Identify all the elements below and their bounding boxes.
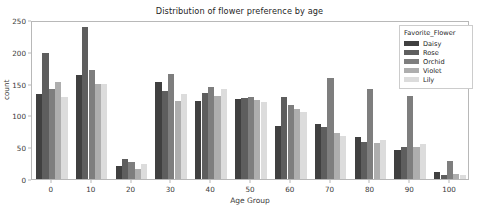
legend-title: Favorite_Flower xyxy=(404,29,468,37)
x-tick-mark xyxy=(409,180,410,183)
bar xyxy=(122,159,128,179)
bar xyxy=(361,142,367,179)
bar xyxy=(101,84,107,179)
bar xyxy=(441,175,447,179)
y-tick-label: 50 xyxy=(17,144,26,153)
x-tick-label: 50 xyxy=(245,185,254,194)
bar xyxy=(241,98,247,179)
bar xyxy=(275,126,281,179)
bar xyxy=(162,91,168,179)
bar xyxy=(42,53,48,179)
bar xyxy=(128,162,134,179)
bar xyxy=(434,172,440,179)
legend-label: Orchid xyxy=(423,58,445,66)
x-tick-mark xyxy=(250,180,251,183)
bar xyxy=(55,82,61,179)
legend-label: Violet xyxy=(423,67,442,75)
bar xyxy=(208,87,214,179)
x-tick-mark xyxy=(329,180,330,183)
x-tick-label: 100 xyxy=(442,185,456,194)
bar xyxy=(407,96,413,179)
legend-label: Rose xyxy=(423,49,439,57)
bar xyxy=(155,82,161,179)
bar xyxy=(380,140,386,179)
bar xyxy=(195,101,201,179)
y-tick-label: 150 xyxy=(12,80,26,89)
legend-item-orchid[interactable]: Orchid xyxy=(404,57,468,66)
legend-swatch-icon xyxy=(404,50,419,56)
bar xyxy=(367,89,373,179)
bar xyxy=(89,70,95,179)
bar xyxy=(413,147,419,179)
x-axis: 0102030405060708090100 xyxy=(31,180,469,196)
y-tick-label: 200 xyxy=(12,48,26,57)
bar xyxy=(300,112,306,179)
bar xyxy=(214,96,220,179)
bar xyxy=(294,109,300,179)
y-axis-label: count xyxy=(2,80,11,100)
legend: Favorite_Flower DaisyRoseOrchidVioletLil… xyxy=(399,25,473,89)
bar xyxy=(181,94,187,179)
bar xyxy=(327,78,333,179)
bar xyxy=(374,143,380,179)
y-tick-label: 100 xyxy=(12,112,26,121)
bar xyxy=(95,84,101,179)
legend-item-lily[interactable]: Lily xyxy=(404,75,468,84)
x-tick-mark xyxy=(289,180,290,183)
legend-swatch-icon xyxy=(404,77,419,83)
legend-item-rose[interactable]: Rose xyxy=(404,48,468,57)
bar xyxy=(334,133,340,179)
bar xyxy=(141,164,147,179)
bar xyxy=(321,127,327,179)
bar xyxy=(36,94,42,179)
bar xyxy=(420,144,426,179)
bar xyxy=(394,150,400,179)
x-tick-mark xyxy=(130,180,131,183)
bar xyxy=(288,105,294,179)
x-tick-label: 20 xyxy=(126,185,135,194)
bar xyxy=(61,97,67,179)
bar xyxy=(315,124,321,179)
x-tick-mark xyxy=(170,180,171,183)
legend-swatch-icon xyxy=(404,68,419,74)
x-tick-label: 60 xyxy=(285,185,294,194)
bar xyxy=(453,174,459,179)
x-tick-mark xyxy=(449,180,450,183)
bar xyxy=(168,74,174,179)
legend-label: Daisy xyxy=(423,40,441,48)
bar xyxy=(340,136,346,179)
x-tick-mark xyxy=(50,180,51,183)
bar xyxy=(76,75,82,179)
x-tick-mark xyxy=(90,180,91,183)
legend-items: DaisyRoseOrchidVioletLily xyxy=(404,39,468,84)
bar xyxy=(281,97,287,179)
bar xyxy=(202,93,208,179)
legend-label: Lily xyxy=(423,76,434,84)
bar xyxy=(460,175,466,179)
chart-title: Distribution of flower preference by age xyxy=(0,6,479,16)
legend-swatch-icon xyxy=(404,41,419,47)
x-tick-label: 90 xyxy=(405,185,414,194)
x-tick-mark xyxy=(210,180,211,183)
chart-figure: Distribution of flower preference by age… xyxy=(0,0,479,216)
bar xyxy=(235,99,241,179)
x-tick-label: 80 xyxy=(365,185,374,194)
bar xyxy=(355,137,361,179)
bar xyxy=(248,97,254,179)
x-tick-label: 30 xyxy=(166,185,175,194)
legend-item-violet[interactable]: Violet xyxy=(404,66,468,75)
x-axis-label: Age Group xyxy=(31,196,469,205)
bar xyxy=(175,101,181,179)
bar xyxy=(254,100,260,180)
x-tick-label: 70 xyxy=(325,185,334,194)
bar xyxy=(82,27,88,179)
y-tick-label: 250 xyxy=(12,17,26,26)
bar xyxy=(135,169,141,179)
legend-item-daisy[interactable]: Daisy xyxy=(404,39,468,48)
bar xyxy=(49,89,55,179)
bar xyxy=(116,166,122,179)
bar xyxy=(261,102,267,179)
y-axis: 050100150200250 xyxy=(0,21,31,180)
x-tick-label: 10 xyxy=(86,185,95,194)
x-tick-mark xyxy=(369,180,370,183)
